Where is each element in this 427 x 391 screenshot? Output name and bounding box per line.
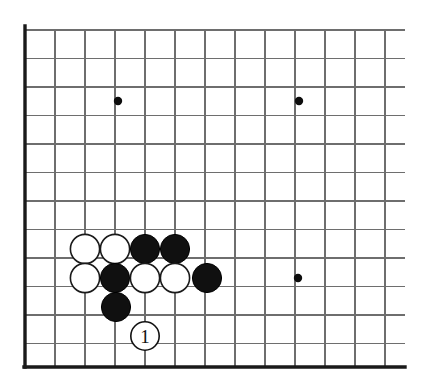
stone-black[interactable] bbox=[160, 234, 189, 263]
stone-white[interactable] bbox=[100, 234, 129, 263]
stone-white[interactable] bbox=[70, 234, 99, 263]
move-marker[interactable]: 1 bbox=[131, 322, 159, 350]
star-point-lower-right bbox=[294, 274, 302, 282]
grid-lines bbox=[25, 30, 405, 367]
goban-canvas: 1 bbox=[0, 0, 427, 391]
move-markers-layer: 1 bbox=[131, 322, 159, 350]
move-marker-number: 1 bbox=[140, 326, 150, 347]
stones-layer bbox=[70, 234, 221, 321]
stone-white[interactable] bbox=[160, 263, 189, 292]
stone-white[interactable] bbox=[130, 263, 159, 292]
board-edges bbox=[24, 26, 405, 367]
star-point-upper-left bbox=[114, 97, 122, 105]
go-board-diagram: 1 bbox=[0, 0, 427, 391]
stone-black[interactable] bbox=[101, 292, 130, 321]
star-point-upper-right bbox=[295, 97, 303, 105]
stone-white[interactable] bbox=[70, 263, 99, 292]
stone-black[interactable] bbox=[100, 263, 129, 292]
stone-black[interactable] bbox=[192, 263, 221, 292]
stone-black[interactable] bbox=[130, 234, 159, 263]
